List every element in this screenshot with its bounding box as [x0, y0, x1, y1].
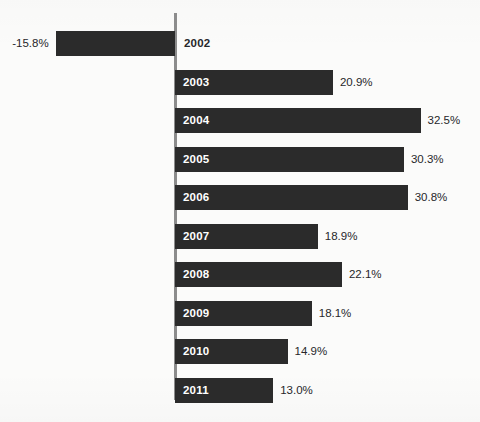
- bar-row: 200530.3%: [0, 147, 480, 172]
- bar-value-label-2007: 18.9%: [325, 224, 358, 249]
- bar-year-label-2009: 2009: [183, 301, 209, 326]
- bar-year-label-2006: 2006: [183, 185, 209, 210]
- bar-value-label-2006: 30.8%: [415, 185, 448, 210]
- bar-chart: 2002-15.8%200320.9%200432.5%200530.3%200…: [0, 0, 480, 422]
- bar-value-label-2002: -15.8%: [0, 31, 49, 56]
- bar-year-label-2010: 2010: [183, 339, 209, 364]
- bar-2006[interactable]: [175, 185, 408, 210]
- bar-row: 200718.9%: [0, 224, 480, 249]
- bar-value-label-2004: 32.5%: [428, 108, 461, 133]
- bar-2002[interactable]: [56, 31, 175, 56]
- bar-value-label-2009: 18.1%: [319, 301, 352, 326]
- bar-value-label-2003: 20.9%: [340, 70, 373, 95]
- bar-row: 201014.9%: [0, 339, 480, 364]
- bar-value-label-2008: 22.1%: [349, 262, 382, 287]
- bar-year-label-2005: 2005: [183, 147, 209, 172]
- bar-year-label-2003: 2003: [183, 70, 209, 95]
- bar-year-label-2004: 2004: [183, 108, 209, 133]
- bar-row: 2002-15.8%: [0, 31, 480, 56]
- bar-year-label-2002: 2002: [184, 31, 210, 56]
- bar-value-label-2010: 14.9%: [295, 339, 328, 364]
- bar-year-label-2008: 2008: [183, 262, 209, 287]
- bar-row: 200630.8%: [0, 185, 480, 210]
- bar-2004[interactable]: [175, 108, 421, 133]
- bar-year-label-2011: 2011: [183, 378, 209, 403]
- bar-row: 200822.1%: [0, 262, 480, 287]
- bar-value-label-2005: 30.3%: [411, 147, 444, 172]
- bar-year-label-2007: 2007: [183, 224, 209, 249]
- bar-row: 201113.0%: [0, 378, 480, 403]
- bar-row: 200432.5%: [0, 108, 480, 133]
- bar-value-label-2011: 13.0%: [280, 378, 313, 403]
- bar-row: 200918.1%: [0, 301, 480, 326]
- bar-row: 200320.9%: [0, 70, 480, 95]
